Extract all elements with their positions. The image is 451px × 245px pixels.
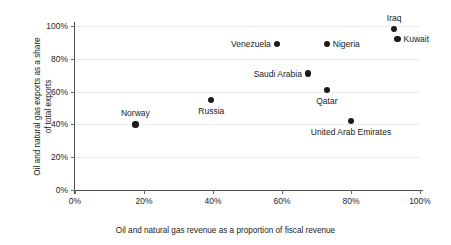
y-axis-tick xyxy=(71,26,75,27)
data-point-label: Kuwait xyxy=(404,34,430,44)
x-axis-tick-label: 80% xyxy=(342,196,359,206)
y-axis-tick xyxy=(71,124,75,125)
x-axis-tick xyxy=(282,190,283,194)
y-axis-title-line-2: of total exports xyxy=(43,12,54,202)
data-point xyxy=(305,70,311,76)
y-axis-tick-label: 80% xyxy=(51,54,68,64)
y-axis-title-line-1: Oil and natural gas exports as a share xyxy=(33,12,44,202)
y-axis-tick-label: 60% xyxy=(51,87,68,97)
x-axis-line xyxy=(71,190,423,191)
y-axis-tick xyxy=(71,59,75,60)
y-axis-tick-label: 0% xyxy=(56,185,68,195)
data-point-label: Qatar xyxy=(316,96,337,106)
data-point xyxy=(132,121,138,127)
x-axis-tick-label: 40% xyxy=(204,196,221,206)
data-point-label: Nigeria xyxy=(333,39,360,49)
data-point-label: Norway xyxy=(121,108,150,118)
scatter-chart: Oil and natural gas exports as a share o… xyxy=(0,0,451,245)
x-axis-tick xyxy=(351,190,352,194)
x-axis-tick xyxy=(213,190,214,194)
x-axis-tick-label: 0% xyxy=(69,196,81,206)
y-axis-tick xyxy=(71,92,75,93)
y-axis-tick-label: 20% xyxy=(51,152,68,162)
data-point xyxy=(208,97,214,103)
y-axis-title: Oil and natural gas exports as a share o… xyxy=(33,12,54,202)
data-point-label: Iraq xyxy=(387,13,402,23)
data-point xyxy=(274,41,280,47)
data-point xyxy=(391,26,397,32)
y-axis-tick-label: 40% xyxy=(51,119,68,129)
gridline-horizontal xyxy=(75,124,420,125)
data-point xyxy=(394,36,400,42)
data-point-label: Saudi Arabia xyxy=(254,69,302,79)
gridline-horizontal xyxy=(75,92,420,93)
data-point-label: Russia xyxy=(198,106,224,116)
y-axis-tick xyxy=(71,157,75,158)
plot-area: NorwayRussiaVenezuelaSaudi ArabiaQatarNi… xyxy=(75,26,420,190)
data-point-label: Venezuela xyxy=(231,39,271,49)
x-axis-tick-label: 60% xyxy=(273,196,290,206)
x-axis-title: Oil and natural gas revenue as a proport… xyxy=(0,226,451,235)
x-axis-tick-label: 20% xyxy=(135,196,152,206)
gridline-horizontal xyxy=(75,26,420,27)
data-point xyxy=(348,118,354,124)
data-point-label: United Arab Emirates xyxy=(311,127,391,137)
x-axis-tick xyxy=(420,190,421,194)
y-axis-tick-label: 100% xyxy=(46,21,68,31)
x-axis-tick xyxy=(144,190,145,194)
gridline-horizontal xyxy=(75,59,420,60)
x-axis-tick-label: 100% xyxy=(409,196,431,206)
x-axis-tick xyxy=(75,190,76,194)
data-point xyxy=(324,41,330,47)
gridline-horizontal xyxy=(75,157,420,158)
